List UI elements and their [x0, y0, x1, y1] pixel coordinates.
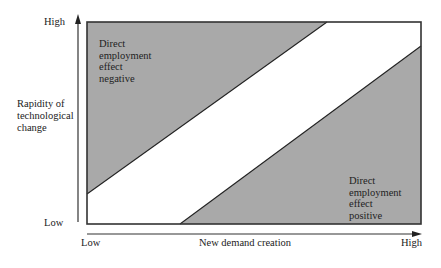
y-axis-high-label: High [44, 16, 65, 28]
x-axis-low-label: Low [81, 237, 100, 249]
y-axis-title: Rapidity of technological change [17, 98, 87, 134]
diagram-graphic [0, 0, 441, 268]
y-axis-low-label: Low [44, 217, 63, 229]
x-axis-title: New demand creation [185, 237, 305, 249]
region-positive-label: Direct employment effect positive [349, 175, 402, 221]
region-negative-label: Direct employment effect negative [99, 38, 152, 84]
y-axis-arrow-icon [75, 14, 81, 24]
x-axis-high-label: High [401, 237, 422, 249]
employment-effect-diagram: High Low Rapidity of technological chang… [0, 0, 441, 268]
